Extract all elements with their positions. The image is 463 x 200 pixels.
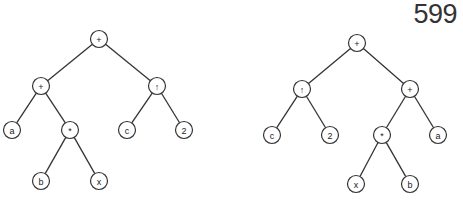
tree-node-var-c: c — [119, 122, 136, 139]
tree-edge — [74, 137, 95, 173]
node-label: 2 — [181, 126, 186, 136]
tree-edge — [386, 142, 406, 176]
tree-node-var-x: x — [91, 173, 108, 190]
right-expression-tree: +↑+c2*axb — [264, 35, 447, 193]
node-label: b — [38, 177, 43, 187]
node-label: + — [96, 35, 101, 45]
left-expression-tree: ++↑a*c2bx — [4, 31, 193, 190]
tree-edge — [45, 137, 66, 173]
node-label: 2 — [327, 131, 332, 141]
tree-node-var-b: b — [402, 176, 419, 193]
tree-node-const-2: 2 — [176, 122, 193, 139]
node-label: + — [354, 39, 359, 49]
tree-node-var-a: a — [430, 127, 447, 144]
node-label: * — [380, 131, 384, 141]
tree-node-plus: + — [402, 81, 419, 98]
tree-edge — [414, 96, 433, 127]
tree-node-var-b: b — [33, 173, 50, 190]
tree-edge — [309, 48, 351, 83]
node-label: b — [407, 180, 412, 190]
tree-node-power: ↑ — [294, 81, 311, 98]
tree-edge — [161, 93, 179, 123]
tree-edge — [17, 93, 37, 123]
tree-edge — [106, 44, 151, 80]
node-label: + — [38, 82, 43, 92]
tree-edge — [386, 96, 405, 127]
node-label: a — [9, 126, 14, 136]
tree-edge — [363, 49, 403, 84]
tree-node-times: * — [62, 122, 79, 139]
tree-node-plus: + — [33, 78, 50, 95]
node-label: a — [435, 131, 440, 141]
node-label: c — [270, 131, 275, 141]
node-label: ↑ — [155, 82, 160, 92]
tree-node-times: * — [374, 127, 391, 144]
node-label: * — [68, 126, 72, 136]
tree-edge — [306, 96, 325, 127]
tree-edge — [132, 93, 152, 123]
tree-edge — [46, 93, 66, 123]
tree-node-var-c: c — [264, 127, 281, 144]
node-label: x — [97, 177, 102, 187]
node-label: + — [407, 85, 412, 95]
tree-edge — [48, 44, 93, 80]
tree-node-var-x: x — [348, 176, 365, 193]
expression-trees-diagram: ++↑a*c2bx+↑+c2*axb — [0, 0, 463, 200]
tree-node-plus: + — [349, 35, 366, 52]
node-label: c — [125, 126, 130, 136]
tree-node-const-2: 2 — [322, 127, 339, 144]
tree-node-plus: + — [91, 31, 108, 48]
node-label: ↑ — [300, 85, 305, 95]
node-label: x — [354, 180, 359, 190]
tree-node-var-a: a — [4, 122, 21, 139]
tree-edge — [277, 96, 298, 128]
tree-node-power: ↑ — [149, 78, 166, 95]
tree-edge — [360, 143, 378, 177]
